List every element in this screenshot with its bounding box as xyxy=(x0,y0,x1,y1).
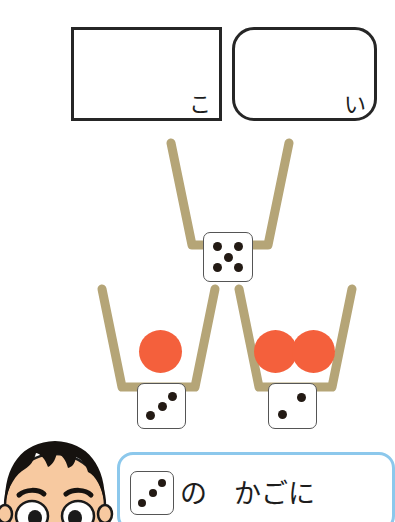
die-pip xyxy=(234,242,243,251)
die-pip xyxy=(234,263,243,272)
answer-box-i-label: い xyxy=(344,94,366,116)
ball-icon xyxy=(292,330,335,373)
die-in-bubble xyxy=(130,471,174,515)
die-pip xyxy=(149,489,157,497)
die-pip xyxy=(158,402,167,411)
speech-bubble: の かごに xyxy=(117,452,395,522)
die-pip xyxy=(224,253,233,262)
die-bottom-right xyxy=(268,383,317,429)
ear-left xyxy=(0,505,12,522)
boy-face-icon xyxy=(0,432,114,522)
die-pip xyxy=(146,411,155,420)
worksheet-canvas: こ い xyxy=(0,0,395,522)
answer-box-ko-label: こ xyxy=(189,94,211,116)
die-top xyxy=(203,232,253,282)
die-pip xyxy=(278,410,287,419)
die-pip xyxy=(158,479,166,487)
die-pip xyxy=(297,393,306,402)
die-pip xyxy=(168,392,177,401)
answer-box-i[interactable]: い xyxy=(232,27,377,121)
die-pip xyxy=(138,499,146,507)
die-pip xyxy=(213,242,222,251)
ball-icon xyxy=(139,330,182,373)
speech-bubble-text: の かごに xyxy=(180,480,315,507)
ball-icon xyxy=(254,330,297,373)
die-pip xyxy=(213,263,222,272)
die-bottom-left xyxy=(137,383,186,429)
answer-box-ko[interactable]: こ xyxy=(71,27,222,121)
speech-bubble-content: の かごに xyxy=(130,469,315,517)
ear-right xyxy=(98,505,112,522)
